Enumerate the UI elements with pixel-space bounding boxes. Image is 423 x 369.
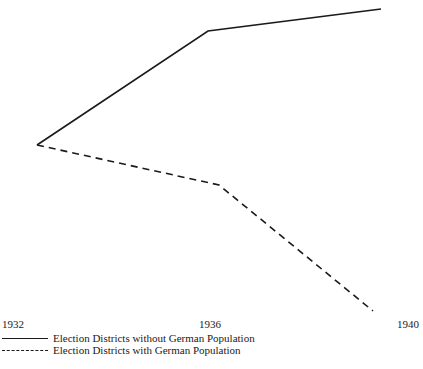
legend-label: Election Districts without German Popula… (53, 332, 255, 344)
legend-label: Election Districts with German Populatio… (53, 344, 241, 356)
series-without-german-population (37, 9, 381, 145)
x-tick-1936: 1936 (199, 318, 221, 330)
solid-line-swatch-icon (2, 338, 48, 339)
dashed-line-swatch-icon (2, 350, 48, 351)
x-tick-1940: 1940 (397, 318, 419, 330)
legend-item-without-german: Election Districts without German Popula… (2, 332, 255, 344)
legend-item-with-german: Election Districts with German Populatio… (2, 344, 241, 356)
line-chart (0, 0, 423, 369)
x-tick-1932: 1932 (2, 318, 24, 330)
series-with-german-population (37, 145, 373, 311)
